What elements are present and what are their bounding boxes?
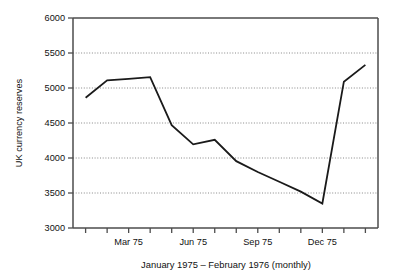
x-tick-label: Sep 75: [243, 237, 272, 247]
y-tick-label: 3000: [45, 223, 65, 233]
chart-figure: 3000350040004500500055006000 Mar 75Jun 7…: [0, 0, 399, 280]
x-axis-title: January 1975 – February 1976 (monthly): [141, 259, 311, 270]
y-tick-label: 5500: [45, 48, 65, 58]
x-tick-label: Mar 75: [114, 237, 143, 247]
x-tick-label: Dec 75: [308, 237, 337, 247]
y-tick-label: 5000: [45, 83, 65, 93]
y-tick-label: 3500: [45, 188, 65, 198]
line-chart: 3000350040004500500055006000 Mar 75Jun 7…: [0, 0, 399, 280]
x-tick-label: Jun 75: [179, 237, 207, 247]
y-axis-title: UK currency reserves: [14, 78, 24, 167]
y-tick-label: 6000: [45, 13, 65, 23]
y-tick-label: 4000: [45, 153, 65, 163]
y-tick-label: 4500: [45, 118, 65, 128]
